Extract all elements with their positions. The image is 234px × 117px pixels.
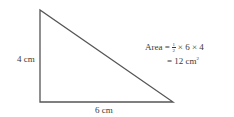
area-result: = 12 cm (167, 56, 197, 66)
base-label: 6 cm (95, 105, 113, 115)
area-prefix: Area = (145, 42, 172, 52)
area-formula-line1: Area = 12 × 6 × 4 (145, 42, 204, 53)
area-multiplication: × 6 × 4 (176, 42, 204, 52)
area-formula-line2: = 12 cm2 (167, 56, 199, 66)
triangle-shape (40, 10, 173, 102)
squared-exponent: 2 (197, 56, 200, 61)
height-label: 4 cm (17, 54, 35, 64)
